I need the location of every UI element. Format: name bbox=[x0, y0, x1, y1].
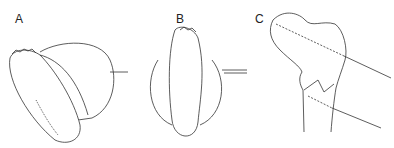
panel-a-drawing bbox=[10, 43, 128, 142]
panel-b-drawing bbox=[150, 27, 247, 136]
illustration bbox=[0, 0, 394, 148]
panel-c-drawing bbox=[270, 13, 391, 132]
